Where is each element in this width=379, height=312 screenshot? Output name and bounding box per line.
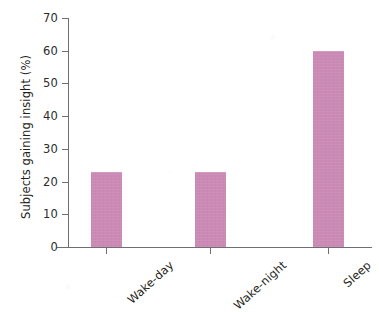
cropped-title-remnant (74, 0, 314, 6)
y-axis-tick-label: 50 (26, 76, 58, 90)
y-axis-tick-label: 30 (26, 142, 58, 156)
y-axis-tick-label: 20 (26, 175, 58, 189)
y-axis-tick-mark (62, 182, 68, 183)
x-axis-tick-label: Wake-day (125, 258, 177, 307)
y-axis-tick-mark (62, 116, 68, 117)
y-axis-tick-label: 40 (26, 109, 58, 123)
y-axis-tick-mark (62, 83, 68, 84)
y-axis-tick-mark (62, 247, 68, 248)
x-axis-tick-label: Wake-night (231, 258, 289, 312)
x-axis-line (57, 247, 372, 248)
bar (91, 172, 122, 247)
y-axis-tick-label: 70 (26, 11, 58, 25)
bar (195, 172, 226, 247)
x-axis-tick-mark (210, 248, 211, 254)
y-axis-tick-label: 60 (26, 44, 58, 58)
y-axis-tick-mark (62, 18, 68, 19)
y-axis-tick-mark (62, 149, 68, 150)
bar-chart-figure: Subjects gaining insight (%) 01020304050… (0, 0, 379, 312)
x-axis-tick-mark (328, 248, 329, 254)
y-axis-tick-mark (62, 51, 68, 52)
y-axis-tick-label: 0 (26, 240, 58, 254)
bar (313, 51, 344, 247)
y-axis-tick-mark (62, 214, 68, 215)
x-axis-tick-label: Sleep (340, 258, 373, 290)
y-axis-tick-label: 10 (26, 207, 58, 221)
x-axis-tick-mark (106, 248, 107, 254)
plot-area (69, 18, 372, 247)
